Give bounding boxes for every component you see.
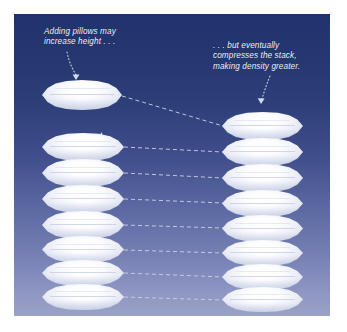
connector-line-6: [124, 250, 223, 253]
connector-line-4: [124, 199, 223, 203]
blue-gradient-panel: Adding pillows may increase height . . .…: [14, 14, 330, 316]
connector-line-7: [124, 273, 223, 277]
pointer-arrow-right-head: [258, 98, 265, 104]
pointer-arrow-left-head: [73, 74, 80, 80]
connector-overlay: [14, 14, 330, 316]
pointer-arrow-right-line: [262, 76, 270, 99]
connector-line-5: [124, 225, 223, 228]
connector-line-2: [124, 147, 223, 152]
pillow-density-figure: Adding pillows may increase height . . .…: [0, 0, 347, 332]
pointer-arrow-left-line: [67, 52, 76, 75]
connector-line-3: [124, 173, 223, 178]
connector-line-1: [122, 96, 223, 126]
connector-line-8: [124, 297, 223, 300]
